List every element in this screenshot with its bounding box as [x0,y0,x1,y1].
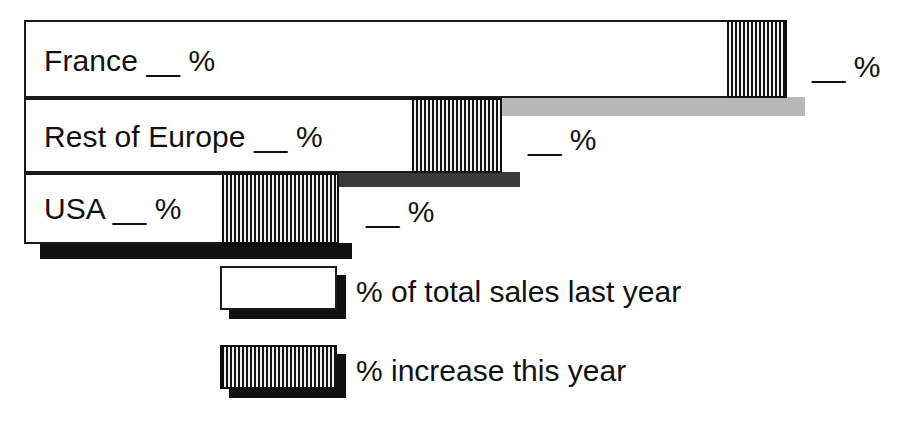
bar-callout-france: __ % [812,52,880,82]
bar-label-france: France __ % [44,46,215,76]
bar-callout-rest-of-europe: __ % [528,125,596,155]
legend-label-increase: % increase this year [356,356,626,386]
legend-label-total-sales: % of total sales last year [356,277,681,307]
bar-callout-usa: __ % [366,197,434,227]
bar-shadow-usa [40,243,352,259]
bar-segment-usa-increase[interactable] [222,173,339,244]
stacked-bar-chart: France __ % __ % Rest of Europe __ % __ … [0,0,908,430]
legend-swatch-total-sales [220,266,337,310]
bar-label-rest-of-europe: Rest of Europe __ % [44,122,323,152]
bar-label-usa: USA __ % [44,194,182,224]
bar-segment-rest-of-europe-increase[interactable] [412,98,502,173]
legend-swatch-increase [220,345,337,389]
bar-segment-france-increase[interactable] [727,20,787,98]
